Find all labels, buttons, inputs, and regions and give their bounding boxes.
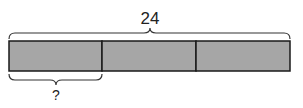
bottom-brace (9, 74, 102, 85)
tape-bar (9, 41, 290, 71)
tape-segment-3 (196, 41, 290, 71)
top-brace (9, 28, 290, 39)
tape-segment-2 (102, 41, 196, 71)
tape-diagram: 24 ? (0, 0, 303, 108)
part-label: ? (52, 87, 60, 103)
tape-segment-1 (9, 41, 102, 71)
total-label: 24 (141, 9, 160, 28)
